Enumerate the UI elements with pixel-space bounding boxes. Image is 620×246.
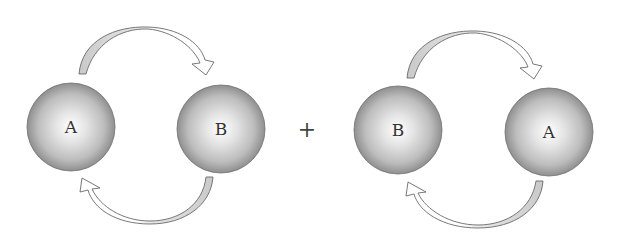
exchange-diagram: A B + B A <box>0 0 620 246</box>
right-pair: B A <box>354 31 593 228</box>
sphere-b-left: B <box>177 85 265 173</box>
sphere-label: B <box>392 120 405 140</box>
plus-operator: + <box>298 117 316 142</box>
arrow-top-right-pair-icon <box>407 31 542 79</box>
arrow-bottom-left-pair-icon <box>80 177 213 224</box>
sphere-label: A <box>64 117 78 137</box>
sphere-label: B <box>215 119 228 139</box>
arrow-bottom-right-pair-icon <box>406 181 543 228</box>
left-pair: A B <box>27 27 265 224</box>
sphere-b-right: B <box>354 86 442 174</box>
sphere-label: A <box>542 122 556 142</box>
sphere-a-left: A <box>27 83 115 171</box>
sphere-a-right: A <box>505 88 593 176</box>
arrow-top-left-pair-icon <box>79 27 214 75</box>
